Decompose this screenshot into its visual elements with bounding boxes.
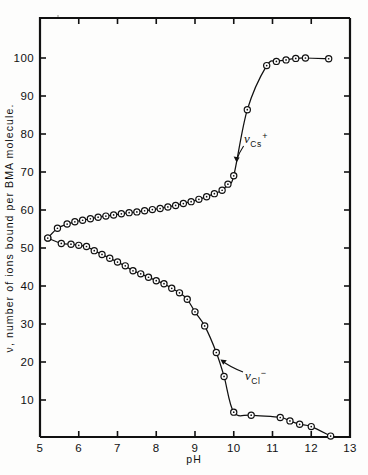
annotation-pointer-cl bbox=[220, 360, 243, 372]
x-tick-label: 11 bbox=[266, 442, 279, 454]
data-point-center bbox=[206, 196, 208, 198]
data-point-center bbox=[144, 210, 146, 212]
scan-speck bbox=[57, 15, 59, 17]
y-tick-label: 90 bbox=[20, 90, 34, 102]
x-tick-label: 13 bbox=[343, 442, 357, 454]
x-tick-label: 7 bbox=[114, 442, 121, 454]
data-point-center bbox=[214, 193, 216, 195]
data-point-center bbox=[66, 223, 68, 225]
titration-chart: 5678910111213 102030405060708090100 νCs+… bbox=[0, 0, 368, 475]
series-label-cl-minus: νCl− bbox=[245, 368, 266, 386]
svg-text:νCl−: νCl− bbox=[245, 368, 266, 386]
series-label-cs-base: ν bbox=[244, 131, 250, 146]
y-axis-title: ν, number of ions bound per BMA molecule… bbox=[3, 104, 15, 353]
data-point-center bbox=[194, 311, 196, 313]
data-point-center bbox=[60, 243, 62, 245]
data-point-center bbox=[233, 175, 235, 177]
data-point-center bbox=[198, 199, 200, 201]
series-label-cs-sup: + bbox=[262, 131, 267, 141]
data-point-center bbox=[152, 209, 154, 211]
data-point-center bbox=[204, 325, 206, 327]
y-tick-label: 80 bbox=[20, 128, 34, 140]
data-point-center bbox=[128, 212, 130, 214]
data-point-center bbox=[136, 211, 138, 213]
x-axis-title: pH bbox=[186, 453, 202, 465]
data-point-center bbox=[186, 298, 188, 300]
data-point-center bbox=[159, 208, 161, 210]
data-point-center bbox=[190, 201, 192, 203]
series-cs-plus bbox=[45, 55, 332, 241]
plot-frame bbox=[40, 18, 350, 437]
data-point-center bbox=[57, 227, 59, 229]
data-point-center bbox=[305, 57, 307, 59]
series-label-cs-sub: Cs bbox=[250, 139, 261, 149]
data-point-center bbox=[47, 237, 49, 239]
curve-line bbox=[48, 238, 331, 436]
data-point-center bbox=[330, 435, 332, 437]
data-point-center bbox=[74, 221, 76, 223]
data-point-center bbox=[223, 376, 225, 378]
series-label-cl-sup: − bbox=[261, 368, 266, 378]
data-point-center bbox=[117, 261, 119, 263]
y-tick-label: 50 bbox=[20, 242, 34, 254]
data-point-center bbox=[250, 414, 252, 416]
data-point-center bbox=[167, 206, 169, 208]
data-point-center bbox=[124, 265, 126, 267]
data-point-center bbox=[70, 243, 72, 245]
x-tick-label: 6 bbox=[75, 442, 82, 454]
x-tick-label: 8 bbox=[153, 442, 160, 454]
data-point-center bbox=[175, 205, 177, 207]
data-point-center bbox=[140, 273, 142, 275]
data-point-center bbox=[163, 283, 165, 285]
data-point-center bbox=[90, 218, 92, 220]
data-point-center bbox=[179, 292, 181, 294]
data-point-center bbox=[171, 287, 173, 289]
y-axis-tick-labels: 102030405060708090100 bbox=[14, 52, 34, 406]
svg-text:νCs+: νCs+ bbox=[244, 131, 267, 149]
data-point-center bbox=[113, 214, 115, 216]
curve-line bbox=[48, 58, 329, 238]
data-point-center bbox=[221, 189, 223, 191]
y-tick-label: 40 bbox=[20, 280, 34, 292]
series-label-cl-sub: Cl bbox=[251, 376, 260, 386]
x-tick-label: 5 bbox=[37, 442, 44, 454]
figure-canvas: 5678910111213 102030405060708090100 νCs+… bbox=[0, 0, 368, 475]
data-point-center bbox=[132, 270, 134, 272]
series-label-cl-base: ν bbox=[245, 368, 251, 383]
data-point-center bbox=[299, 423, 301, 425]
data-point-center bbox=[148, 276, 150, 278]
y-tick-label: 100 bbox=[14, 52, 34, 64]
data-point-center bbox=[310, 426, 312, 428]
series-label-cs-plus: νCs+ bbox=[244, 131, 267, 149]
data-point-center bbox=[82, 219, 84, 221]
data-point-center bbox=[276, 61, 278, 63]
data-point-center bbox=[183, 203, 185, 205]
data-point-center bbox=[97, 216, 99, 218]
data-point-center bbox=[295, 58, 297, 60]
y-tick-label: 70 bbox=[20, 166, 34, 178]
data-point-center bbox=[328, 58, 330, 60]
data-point-center bbox=[155, 280, 157, 282]
data-point-center bbox=[86, 246, 88, 248]
series-cl-minus bbox=[45, 235, 334, 439]
data-point-center bbox=[227, 183, 229, 185]
data-point-center bbox=[215, 352, 217, 354]
data-point-center bbox=[109, 257, 111, 259]
data-point-center bbox=[101, 254, 103, 256]
y-tick-label: 60 bbox=[20, 204, 34, 216]
data-point-center bbox=[93, 250, 95, 252]
data-point-center bbox=[285, 59, 287, 61]
data-point-center bbox=[279, 417, 281, 419]
data-point-center bbox=[78, 244, 80, 246]
data-point-center bbox=[121, 213, 123, 215]
y-tick-label: 30 bbox=[20, 318, 34, 330]
y-tick-label: 10 bbox=[20, 394, 34, 406]
data-point-center bbox=[233, 411, 235, 413]
data-point-center bbox=[266, 65, 268, 67]
data-point-center bbox=[246, 109, 248, 111]
x-tick-label: 12 bbox=[304, 442, 318, 454]
x-tick-label: 10 bbox=[227, 442, 241, 454]
data-point-center bbox=[105, 215, 107, 217]
data-point-center bbox=[289, 420, 291, 422]
y-tick-label: 20 bbox=[20, 356, 34, 368]
